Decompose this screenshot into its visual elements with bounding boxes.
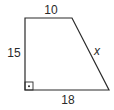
left-side-label: 15: [7, 46, 21, 60]
top-side-label: 10: [44, 3, 58, 17]
trapezoid-diagram: 10 15 x 18: [0, 0, 114, 110]
bottom-side-label: 18: [61, 93, 75, 107]
slant-side-label: x: [93, 44, 101, 58]
right-angle-dot: [28, 85, 30, 87]
